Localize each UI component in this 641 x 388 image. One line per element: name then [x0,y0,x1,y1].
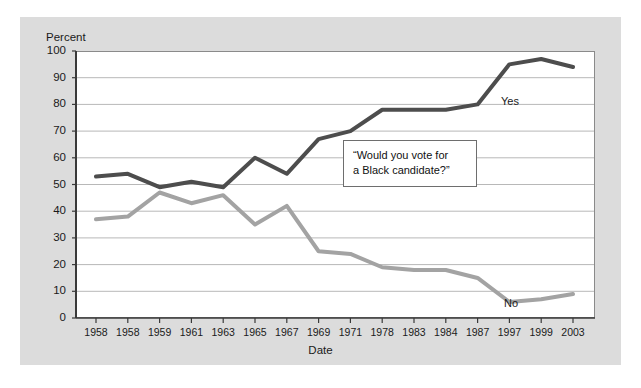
x-tick-label: 2003 [553,327,593,338]
y-tick-label-90: 90 [28,72,66,84]
survey-question-annotation: “Would you vote for a Black candidate?” [343,140,477,187]
y-tick-label-50: 50 [28,179,66,191]
series-label-yes: Yes [501,96,519,107]
y-tick-label-10: 10 [28,285,66,297]
y-tick-label-60: 60 [28,152,66,164]
series-line-no [96,193,573,302]
y-tick-label-70: 70 [28,125,66,137]
x-axis-title: Date [20,344,621,356]
annotation-line-2: a Black candidate?” [353,163,467,178]
chart-canvas [20,17,621,365]
y-tick-label-40: 40 [28,205,66,217]
figure-root: Percent 1009080706050403020100 195819581… [0,0,641,388]
annotation-line-1: “Would you vote for [353,148,467,163]
y-tick-label-30: 30 [28,232,66,244]
y-tick-label-20: 20 [28,259,66,271]
y-tick-label-100: 100 [28,45,66,57]
y-tick-label-80: 80 [28,98,66,110]
series-label-no: No [504,298,518,309]
series-line-yes [96,59,573,187]
chart-panel: Percent 1009080706050403020100 195819581… [20,17,621,365]
y-tick-label-0: 0 [28,312,66,324]
chart-panel-inner: Percent 1009080706050403020100 195819581… [20,17,621,365]
